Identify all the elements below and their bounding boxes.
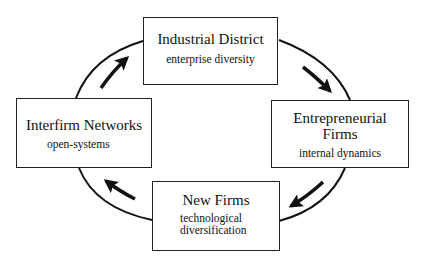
node-subtitle-line-1: technological	[180, 212, 279, 224]
arc-industrial-to-entrepreneurial	[279, 40, 350, 100]
node-new-firms: New Firms technological diversification	[152, 181, 280, 251]
node-subtitle: internal dynamics	[272, 147, 408, 159]
node-title-line-2: Firms	[272, 126, 408, 142]
arrow-icon-down-right	[303, 67, 330, 91]
arrow-icon-up-left	[106, 181, 135, 199]
node-subtitle-line-2: diversification	[180, 224, 279, 236]
arc-new-to-interfirm	[79, 168, 152, 220]
arc-entrepreneurial-to-new	[279, 168, 345, 221]
node-title-line-1: Entrepreneurial	[272, 110, 408, 126]
node-entrepreneurial-firms: Entrepreneurial Firms internal dynamics	[271, 100, 409, 168]
node-interfirm-networks: Interfirm Networks open-systems	[16, 98, 152, 168]
node-title: Interfirm Networks	[17, 117, 151, 133]
node-title: Industrial District	[144, 31, 277, 47]
node-subtitle: enterprise diversity	[144, 53, 277, 65]
arrow-icon-up-right	[101, 58, 127, 88]
node-subtitle: technological diversification	[153, 212, 279, 236]
arc-interfirm-to-industrial	[76, 41, 143, 98]
node-industrial-district: Industrial District enterprise diversity	[143, 17, 278, 85]
node-subtitle: open-systems	[17, 138, 151, 150]
node-title: New Firms	[153, 192, 279, 208]
